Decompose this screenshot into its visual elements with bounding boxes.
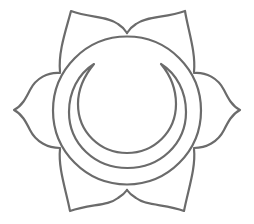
sacral-chakra-icon: [0, 0, 254, 224]
outer-circle-icon: [53, 37, 201, 185]
chakra-canvas: Sacral chakra (Svadhisthana) line symbol: [0, 0, 254, 224]
